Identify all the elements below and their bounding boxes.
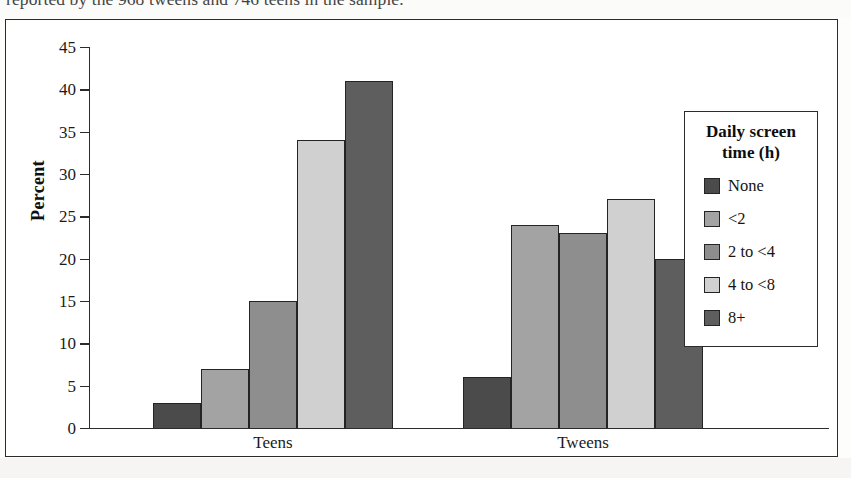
legend-entry-label: <2 bbox=[728, 211, 746, 228]
y-axis-tick-mark bbox=[80, 428, 90, 429]
y-axis-tick-label: 5 bbox=[28, 377, 76, 394]
x-axis-line bbox=[89, 428, 829, 429]
page-bottom-margin bbox=[0, 458, 851, 478]
legend-entry-1: <2 bbox=[685, 202, 817, 235]
y-axis-tick-label: 0 bbox=[28, 420, 76, 437]
y-axis-title: Percent bbox=[28, 131, 49, 251]
legend-swatch-icon bbox=[704, 244, 720, 260]
y-axis-tick-mark bbox=[80, 89, 90, 90]
y-axis-tick-mark bbox=[80, 301, 90, 302]
legend-entries: None<22 to <44 to <88+ bbox=[685, 169, 817, 334]
y-axis-tick-label: 15 bbox=[28, 293, 76, 310]
truncated-caption-text: reported by the 968 tweens and 746 teens… bbox=[6, 0, 404, 10]
y-axis-tick-mark bbox=[80, 259, 90, 260]
y-axis-tick-label: 20 bbox=[28, 250, 76, 267]
legend-entry-3: 4 to <8 bbox=[685, 268, 817, 301]
legend-title: Daily screen time (h) bbox=[685, 121, 817, 169]
legend-swatch-icon bbox=[704, 277, 720, 293]
legend-entry-label: 2 to <4 bbox=[728, 244, 775, 261]
legend-entry-label: None bbox=[728, 178, 764, 195]
legend-swatch-icon bbox=[704, 178, 720, 194]
legend-swatch-icon bbox=[704, 310, 720, 326]
figure-frame: 051015202530354045 Percent TeensTweens A… bbox=[5, 19, 838, 457]
bar-teens-series-0 bbox=[153, 403, 201, 428]
legend-entry-label: 8+ bbox=[728, 310, 746, 327]
figure-page: reported by the 968 tweens and 746 teens… bbox=[0, 0, 851, 478]
y-axis-tick-mark bbox=[80, 386, 90, 387]
y-axis-tick-label: 40 bbox=[28, 81, 76, 98]
y-axis-tick-mark bbox=[80, 47, 90, 48]
bar-tweens-series-2 bbox=[559, 233, 607, 428]
y-axis-tick-mark bbox=[80, 132, 90, 133]
x-axis-category-label: Teens bbox=[253, 433, 292, 453]
legend-entry-4: 8+ bbox=[685, 301, 817, 334]
bar-teens-series-2 bbox=[249, 301, 297, 428]
bar-tweens-series-1 bbox=[511, 225, 559, 428]
y-axis-tick-mark bbox=[80, 216, 90, 217]
legend: Daily screen time (h) None<22 to <44 to … bbox=[684, 111, 818, 347]
legend-entry-2: 2 to <4 bbox=[685, 235, 817, 268]
legend-swatch-icon bbox=[704, 211, 720, 227]
bar-tweens-series-3 bbox=[607, 199, 655, 428]
bar-teens-series-3 bbox=[297, 140, 345, 428]
x-axis-category-label: Tweens bbox=[557, 433, 609, 453]
bar-teens-series-4 bbox=[345, 81, 393, 428]
bar-tweens-series-0 bbox=[463, 377, 511, 428]
legend-entry-label: 4 to <8 bbox=[728, 277, 775, 294]
y-axis-tick-mark bbox=[80, 174, 90, 175]
legend-entry-0: None bbox=[685, 169, 817, 202]
document-caption-strip: reported by the 968 tweens and 746 teens… bbox=[0, 0, 851, 18]
y-axis-tick-mark bbox=[80, 343, 90, 344]
y-axis-tick-label: 45 bbox=[28, 39, 76, 56]
y-axis-tick-label: 10 bbox=[28, 335, 76, 352]
bar-teens-series-1 bbox=[201, 369, 249, 428]
